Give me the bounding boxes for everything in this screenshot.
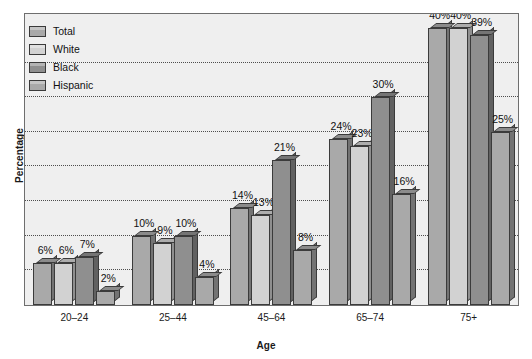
legend-item-label: Total (53, 26, 75, 37)
bar-value-label: 7% (70, 238, 104, 250)
legend-item-black[interactable]: Black (29, 59, 93, 75)
legend-swatch-icon (29, 80, 46, 91)
bar-value-label: 2% (91, 272, 125, 284)
bar-value-label: 8% (288, 231, 322, 243)
bar-front-face (293, 250, 312, 305)
bar-total-0[interactable]: 6% (33, 263, 52, 305)
bar-front-face (428, 28, 447, 305)
bar-front-face (329, 139, 348, 305)
bar-front-face (449, 28, 468, 305)
bar-group-3: 24%23%30%16% (321, 14, 420, 305)
bar-front-face (251, 215, 270, 305)
bar-total-4[interactable]: 40% (428, 28, 447, 305)
bar-value-label: 25% (486, 113, 519, 125)
legend-swatch-icon (29, 26, 46, 37)
bar-black-4[interactable]: 39% (470, 35, 489, 305)
bar-hispanic-3[interactable]: 16% (392, 194, 411, 305)
bar-group-2: 14%13%21%8% (222, 14, 321, 305)
bar-white-0[interactable]: 6% (54, 263, 73, 305)
bar-front-face (96, 291, 115, 305)
bar-hispanic-4[interactable]: 25% (491, 132, 510, 305)
bar-hispanic-0[interactable]: 2% (96, 291, 115, 305)
bar-white-3[interactable]: 23% (350, 146, 369, 305)
chart-legend: TotalWhiteBlackHispanic (29, 23, 93, 95)
legend-swatch-icon (29, 44, 46, 55)
bar-front-face (350, 146, 369, 305)
bar-value-label: 10% (169, 217, 203, 229)
legend-swatch-icon (29, 62, 46, 73)
bar-white-1[interactable]: 9% (153, 243, 172, 305)
bar-side-face (510, 124, 515, 301)
bar-value-label: 16% (387, 175, 421, 187)
bar-front-face (153, 243, 172, 305)
bar-group-1: 10%9%10%4% (124, 14, 223, 305)
bar-side-face (411, 186, 416, 301)
bar-side-face (312, 242, 317, 301)
bar-front-face (230, 208, 249, 305)
bar-chart-figure: Percentage 6%6%7%2%10%9%10%4%14%13%21%8%… (0, 0, 532, 359)
bar-front-face (371, 97, 390, 305)
bar-white-4[interactable]: 40% (449, 28, 468, 305)
bar-front-face (491, 132, 510, 305)
bar-front-face (392, 194, 411, 305)
bar-group-4: 40%40%39%25% (419, 14, 518, 305)
legend-item-label: Hispanic (53, 80, 93, 91)
bar-value-label: 4% (190, 258, 224, 270)
legend-item-hispanic[interactable]: Hispanic (29, 77, 93, 93)
legend-item-white[interactable]: White (29, 41, 93, 57)
x-axis-title: Age (0, 340, 532, 351)
bar-front-face (132, 236, 151, 305)
bar-value-label: 39% (465, 16, 499, 28)
bar-front-face (54, 263, 73, 305)
legend-item-label: Black (53, 62, 79, 73)
bar-black-3[interactable]: 30% (371, 97, 390, 305)
bar-black-1[interactable]: 10% (174, 236, 193, 305)
bar-hispanic-1[interactable]: 4% (195, 277, 214, 305)
bar-hispanic-2[interactable]: 8% (293, 250, 312, 305)
bar-total-2[interactable]: 14% (230, 208, 249, 305)
x-tick-label-4: 75+ (409, 312, 529, 323)
legend-item-label: White (53, 44, 80, 55)
bar-front-face (33, 263, 52, 305)
bar-total-3[interactable]: 24% (329, 139, 348, 305)
plot-area: 6%6%7%2%10%9%10%4%14%13%21%8%24%23%30%16… (24, 13, 519, 306)
bar-value-label: 30% (366, 78, 400, 90)
bar-white-2[interactable]: 13% (251, 215, 270, 305)
y-axis-title: Percentage (14, 111, 25, 201)
bar-front-face (470, 35, 489, 305)
bar-value-label: 21% (267, 141, 301, 153)
bar-total-1[interactable]: 10% (132, 236, 151, 305)
bar-front-face (174, 236, 193, 305)
bar-front-face (195, 277, 214, 305)
legend-item-total[interactable]: Total (29, 23, 93, 39)
